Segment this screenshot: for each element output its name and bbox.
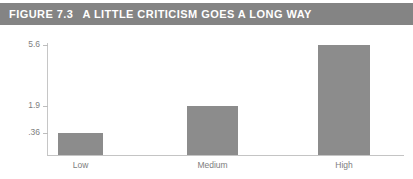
y-tick-label-low: .36: [0, 128, 40, 137]
x-axis-line: [47, 155, 404, 156]
figure-container: FIGURE 7.3 A LITTLE CRITICISM GOES A LON…: [0, 0, 413, 179]
y-tick-mark-low: [43, 133, 48, 134]
bar-high: [318, 45, 370, 155]
bar-medium: [187, 106, 238, 155]
figure-title-bar: FIGURE 7.3 A LITTLE CRITICISM GOES A LON…: [0, 3, 413, 25]
figure-number-label: FIGURE 7.3: [9, 8, 73, 20]
y-tick-mark-high: [43, 45, 48, 46]
figure-title-text: A LITTLE CRITICISM GOES A LONG WAY: [82, 8, 311, 20]
y-tick-mark-mid: [43, 106, 48, 107]
y-tick-label-high: 5.6: [0, 40, 40, 49]
y-tick-label-mid: 1.9: [0, 101, 40, 110]
chart-plot-area: 5.6 1.9 .36 Low Medium High: [0, 25, 413, 179]
x-category-label-medium: Medium: [187, 160, 238, 170]
x-category-label-low: Low: [58, 160, 103, 170]
figure-title-inner: FIGURE 7.3 A LITTLE CRITICISM GOES A LON…: [9, 3, 312, 25]
bar-low: [58, 133, 103, 155]
x-category-label-high: High: [318, 160, 370, 170]
y-axis-line: [47, 43, 48, 155]
